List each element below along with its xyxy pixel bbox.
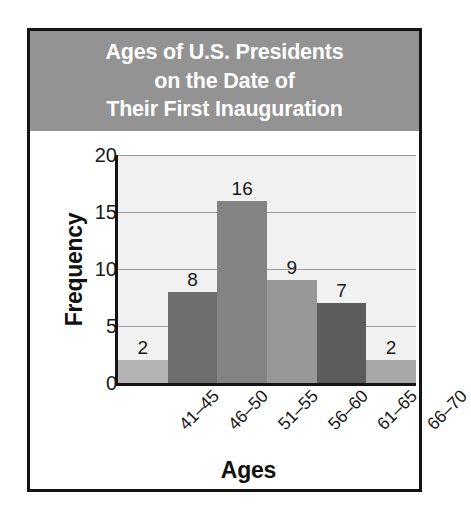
y-axis-title: Frequency	[61, 185, 88, 355]
bar: 2	[366, 360, 416, 383]
chart-title-line-1: Ages of U.S. Presidents	[106, 38, 344, 66]
bar: 16	[217, 201, 267, 383]
bar: 9	[267, 280, 317, 383]
x-axis-tick-labels: 41–4546–5051–5556–6061–6566–70	[115, 386, 413, 448]
y-tick-label: 10	[85, 259, 117, 279]
chart-title-banner: Ages of U.S. Presidents on the Date of T…	[30, 31, 419, 131]
x-tick-label: 51–55	[274, 386, 323, 435]
x-tick-label: 46–50	[224, 386, 273, 435]
y-tick-label: 15	[85, 202, 117, 222]
figure-frame: Ages of U.S. Presidents on the Date of T…	[27, 28, 422, 492]
bar-value-label: 2	[138, 338, 149, 360]
bar-value-label: 9	[287, 258, 298, 280]
y-tick-label: 5	[85, 316, 117, 336]
x-tick-label: 66–70	[423, 386, 471, 435]
y-tick-label: 0	[85, 373, 117, 393]
x-axis-title: Ages	[30, 457, 419, 484]
y-axis-tick-labels: 05101520	[85, 155, 117, 383]
x-tick-label: 56–60	[324, 386, 373, 435]
bar-value-label: 16	[232, 179, 253, 201]
chart-title-line-2: on the Date of	[154, 67, 295, 95]
bar-value-label: 2	[386, 338, 397, 360]
plot-area: 2816972	[115, 155, 416, 386]
bar-value-label: 8	[187, 270, 198, 292]
x-tick-label: 61–65	[373, 386, 422, 435]
bar-value-label: 7	[336, 281, 347, 303]
bar: 2	[118, 360, 168, 383]
bar: 8	[168, 292, 218, 383]
y-tick-label: 20	[85, 145, 117, 165]
bar: 7	[317, 303, 367, 383]
chart-region: Frequency 05101520 2816972 41–4546–5051–…	[30, 131, 419, 489]
x-tick-label: 41–45	[175, 386, 224, 435]
chart-title-line-3: Their First Inauguration	[106, 95, 343, 123]
bars-layer: 2816972	[118, 155, 416, 383]
